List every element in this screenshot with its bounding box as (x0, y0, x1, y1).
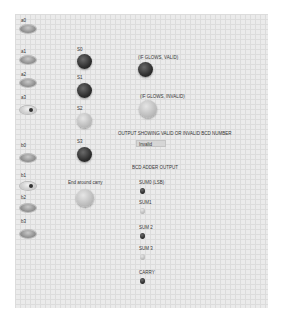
switch-b2[interactable] (20, 204, 36, 212)
led-valid (138, 62, 153, 77)
led-sum1 (140, 208, 145, 214)
sum1-label: SUM1 (139, 200, 152, 205)
sum3-label: SUM 3 (139, 246, 153, 251)
switch-label-a0: a0 (21, 18, 26, 23)
switch-label-a2: a2 (21, 72, 26, 77)
invalid-led-label: (IF GLOWS, INVALID) (140, 94, 185, 99)
switch-label-a1: a1 (21, 49, 26, 54)
led-sum3 (140, 254, 145, 260)
switch-a1[interactable] (20, 56, 36, 64)
switch-a3[interactable] (20, 106, 36, 114)
led-s2 (77, 113, 92, 128)
led-end-around-carry (76, 189, 94, 207)
switch-label-b2: b2 (21, 195, 26, 200)
switch-b3[interactable] (20, 230, 36, 238)
switch-on-indicator-icon (29, 184, 33, 188)
led-s3 (77, 147, 92, 162)
led-invalid (139, 100, 157, 118)
carry-label: CARRY (139, 270, 155, 275)
led-sum2 (140, 233, 145, 239)
sum0-label: SUM0 (LSB) (139, 180, 164, 185)
switch-label-a3: a3 (21, 95, 26, 100)
switch-label-b0: b0 (21, 143, 26, 148)
led-sum0 (140, 188, 145, 194)
switch-b1[interactable] (20, 182, 36, 190)
led-label-s0: S0 (77, 47, 83, 52)
end-around-carry-label: End around carry (68, 180, 103, 185)
led-carry (140, 278, 145, 284)
switch-a0[interactable] (20, 25, 36, 33)
switch-on-indicator-icon (29, 108, 33, 112)
bcd-adder-output-label: BCD ADDER OUTPUT (132, 165, 178, 170)
led-s1 (77, 83, 92, 98)
led-label-s1: S1 (77, 75, 83, 80)
led-s0 (77, 54, 92, 69)
switch-label-b1: b1 (21, 173, 26, 178)
switch-label-b3: b3 (21, 219, 26, 224)
switch-b0[interactable] (20, 154, 36, 162)
output-status-label: OUTPUT SHOWING VALID OR INVALID BCD NUMB… (118, 131, 232, 136)
led-label-s3: S3 (77, 139, 83, 144)
led-label-s2: S2 (77, 106, 83, 111)
output-status-indicator: Invalid (136, 140, 166, 147)
sum2-label: SUM 2 (139, 225, 153, 230)
valid-led-label: (IF GLOWS, VALID) (138, 55, 178, 60)
switch-a2[interactable] (20, 79, 36, 87)
